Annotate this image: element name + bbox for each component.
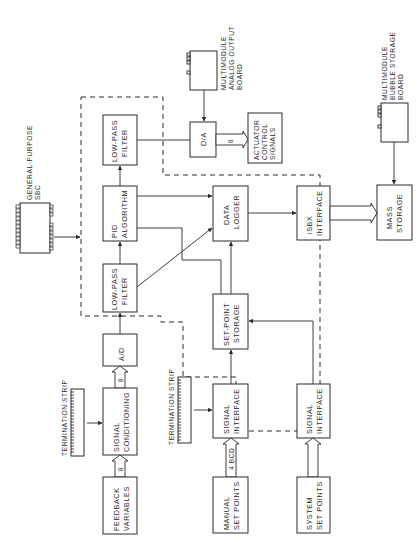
analog-output-board-label: MULTIMODULE ANALOG OUTPUT BOARD [220, 26, 243, 90]
lpf-to-logger-arrow [137, 228, 212, 287]
svg-text:INTERFACE: INTERFACE [232, 388, 241, 434]
svg-text:FEEDBACK: FEEDBACK [112, 487, 121, 531]
svg-text:iSBX: iSBX [305, 216, 314, 234]
general-purpose-sbc-icon [16, 203, 53, 253]
svg-text:SIGNAL: SIGNAL [305, 404, 314, 434]
svg-text:DATA: DATA [222, 204, 231, 225]
svg-text:ACTUATOR: ACTUATOR [253, 120, 260, 160]
svg-text:INTERFACE: INTERFACE [315, 388, 324, 434]
set-point-storage-block: SET-POINT STORAGE [213, 294, 248, 349]
signal-interface-manual-block: SIGNAL INTERFACE [213, 384, 248, 438]
system-set-points-block: SYSTEM SET POINTS [297, 477, 330, 533]
svg-text:CONDITIONING: CONDITIONING [122, 392, 131, 452]
svg-text:CONTROL: CONTROL [261, 124, 268, 160]
termination-strip-2-icon [178, 377, 191, 443]
svg-text:LOW-PASS: LOW-PASS [110, 268, 119, 310]
signal-interface-system-block: SIGNAL INTERFACE [297, 384, 330, 438]
actuator-control-signals-block: ACTUATOR CONTROL SIGNALS [248, 113, 282, 163]
conditioning-to-ad-bus [112, 366, 128, 388]
svg-text:MASS: MASS [385, 206, 394, 229]
svg-text:FILTER: FILTER [120, 277, 129, 305]
sbc-label: GENERAL-PURPOSE SBC [26, 125, 41, 200]
svg-text:STORAGE: STORAGE [232, 304, 241, 343]
svg-text:4 BCD: 4 BCD [228, 448, 235, 470]
termination-strip-2-label: TERMINATION STRIP [168, 369, 175, 445]
pid-to-setpoint-line [137, 228, 221, 294]
termination-strip-1-label: TERMINATION STRIP [61, 380, 68, 456]
svg-text:D/A: D/A [199, 132, 208, 146]
svg-text:8: 8 [117, 378, 124, 382]
svg-text:BOARD: BOARD [397, 74, 404, 100]
svg-text:MULTIMODULE: MULTIMODULE [381, 46, 388, 100]
svg-text:INTERFACE: INTERFACE [315, 190, 324, 236]
svg-text:8: 8 [227, 139, 234, 143]
svg-text:A/D: A/D [117, 347, 126, 361]
svg-text:GENERAL-PURPOSE: GENERAL-PURPOSE [26, 125, 33, 200]
manual-set-points-block: MANUAL SET POINTS [213, 477, 248, 533]
a-d-converter-block: A/D [103, 334, 137, 366]
termination-strip-1-icon [71, 389, 84, 456]
svg-text:8: 8 [117, 467, 124, 471]
svg-text:BUBBLE STORAGE: BUBBLE STORAGE [389, 32, 396, 100]
d-a-converter-block: D/A [190, 122, 216, 157]
svg-text:MULTIMODULE: MULTIMODULE [220, 36, 227, 90]
low-pass-filter-input-block: LOW-PASS FILTER [103, 264, 137, 312]
svg-text:SIGNALS: SIGNALS [269, 127, 276, 160]
svg-text:PID: PID [110, 224, 119, 238]
feedback-variables-block: FEEDBACK VARIABLES [103, 477, 137, 534]
bubble-storage-board-icon [378, 103, 408, 142]
svg-text:SET-POINT: SET-POINT [222, 303, 231, 346]
svg-text:BOARD: BOARD [236, 64, 243, 90]
isbx-to-mass-storage-bus [330, 203, 377, 223]
signal-conditioning-block: SIGNAL CONDITIONING [103, 388, 137, 455]
svg-text:SIGNAL: SIGNAL [222, 404, 231, 434]
bubble-storage-board-label: MULTIMODULE BUBBLE STORAGE BOARD [381, 32, 404, 100]
svg-text:ANALOG OUTPUT: ANALOG OUTPUT [228, 26, 235, 90]
system-interface-to-setpoint-arrow [249, 321, 313, 384]
analog-output-board-icon [187, 51, 217, 90]
control-system-block-diagram: LOW-PASS FILTER D/A MULTIMODULE ANALOG O… [0, 0, 418, 546]
svg-text:SBC: SBC [34, 185, 41, 200]
system-to-interface-bus [305, 438, 321, 477]
svg-text:ALGORITHM: ALGORITHM [120, 190, 129, 238]
svg-text:MANUAL: MANUAL [222, 496, 231, 530]
svg-text:LOW-PASS: LOW-PASS [110, 120, 119, 162]
feedback-to-conditioning-bus [112, 455, 128, 477]
svg-text:SIGNAL: SIGNAL [112, 422, 121, 452]
data-logger-block: DATA LOGGER [213, 186, 248, 241]
svg-text:LOGGER: LOGGER [232, 195, 241, 229]
svg-text:STORAGE: STORAGE [395, 194, 404, 233]
svg-text:SYSTEM: SYSTEM [305, 497, 314, 530]
svg-text:SET POINTS: SET POINTS [315, 481, 324, 530]
mass-storage-block: MASS STORAGE [377, 185, 412, 240]
svg-text:FILTER: FILTER [120, 129, 129, 157]
svg-text:VARIABLES: VARIABLES [122, 486, 131, 531]
isbx-interface-block: iSBX INTERFACE [297, 186, 330, 240]
low-pass-filter-output-block: LOW-PASS FILTER [103, 115, 137, 165]
pid-algorithm-block: PID ALGORITHM [103, 186, 137, 241]
svg-text:SET POINTS: SET POINTS [232, 481, 241, 530]
